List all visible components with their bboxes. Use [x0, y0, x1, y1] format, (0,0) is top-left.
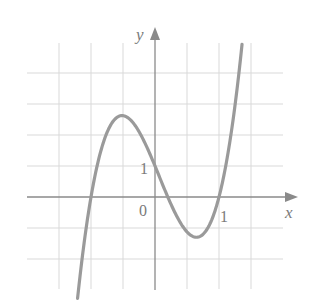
function-curve	[78, 44, 242, 298]
x-axis-label: x	[284, 203, 293, 222]
origin-label: 0	[139, 202, 147, 219]
x-axis-arrow-icon	[285, 192, 298, 202]
function-graph: y x 0 1 1	[0, 0, 316, 305]
y-axis-label: y	[134, 25, 144, 44]
x-tick-label-1: 1	[220, 208, 228, 225]
y-axis-arrow-icon	[150, 27, 160, 40]
y-tick-label-1: 1	[140, 160, 148, 177]
